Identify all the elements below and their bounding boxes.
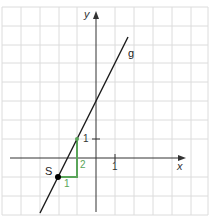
point-s [55, 174, 61, 180]
line-label: g [128, 47, 134, 59]
x-axis [10, 154, 186, 162]
slope-rise-label: 2 [80, 159, 86, 170]
y-axis-label: y [84, 8, 90, 20]
point-top-of-triangle [75, 137, 79, 141]
point-label: S [45, 165, 52, 177]
y-axis-arrow-icon [93, 11, 99, 19]
y-axis [92, 11, 100, 212]
coordinate-graph [0, 0, 210, 217]
x-axis-label: x [177, 160, 183, 172]
y-tick-label: 1 [83, 133, 89, 144]
slope-run-label: 1 [64, 178, 70, 189]
grid [2, 7, 208, 215]
x-tick-label: 1 [112, 161, 118, 172]
